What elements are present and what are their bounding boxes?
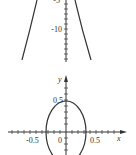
x-axis-arrow-icon bbox=[120, 130, 127, 134]
parabola-left-branch bbox=[22, 0, 37, 60]
upper-y-label-minus5: -5 bbox=[53, 0, 60, 5]
x-axis-label: x bbox=[116, 134, 121, 143]
x-tick-label-0.5: 0.5 bbox=[90, 136, 100, 145]
x-tick-label-minus0.5: -0.5 bbox=[26, 136, 39, 145]
lower-plot: y x bbox=[8, 75, 127, 155]
y-axis-label: y bbox=[57, 75, 62, 84]
upper-y-label-minus10: -10 bbox=[51, 25, 62, 34]
y-axis-arrow-icon bbox=[64, 75, 68, 82]
upper-plot: -5 -10 bbox=[22, 0, 91, 62]
figure-canvas: -5 -10 y x bbox=[0, 0, 136, 155]
x-tick-label-0: 0 bbox=[58, 136, 62, 145]
parabola-right-branch bbox=[75, 0, 91, 60]
